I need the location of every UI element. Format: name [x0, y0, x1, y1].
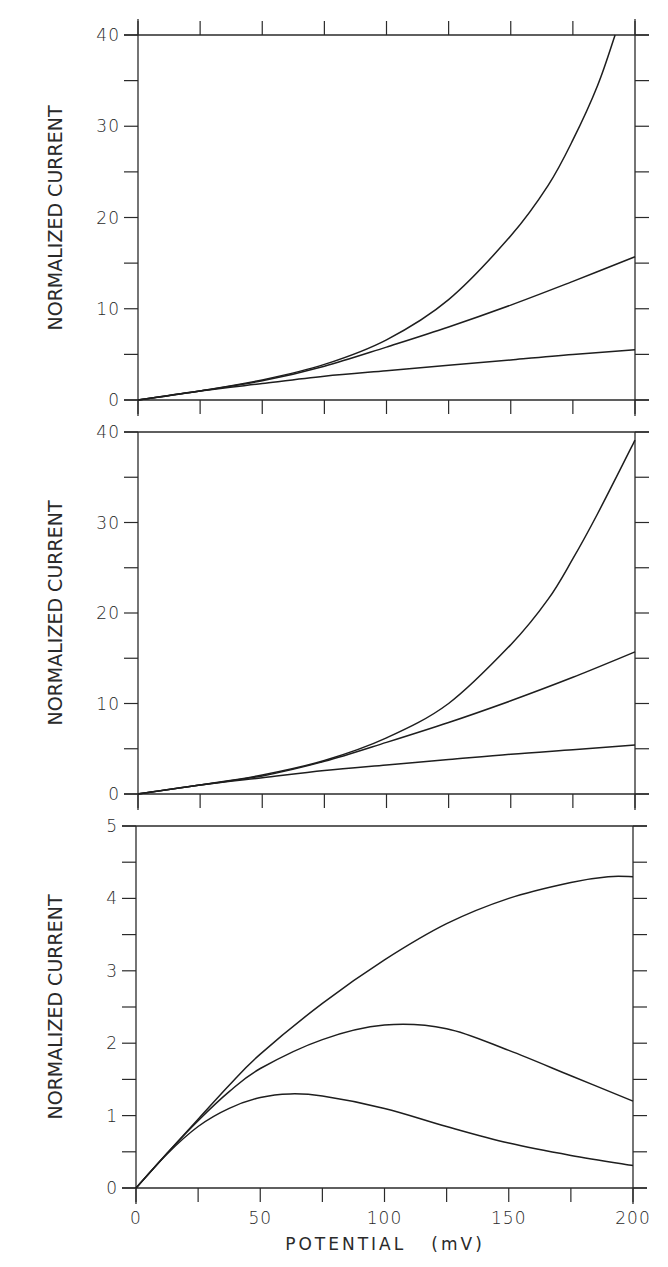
x-tick-label: 0 [130, 1208, 142, 1228]
panel-bottom-curves [136, 876, 633, 1188]
y-tick-label: 0 [106, 1178, 118, 1198]
y-tick-label: 40 [96, 422, 120, 442]
y-tick-label: 10 [96, 694, 120, 714]
y-tick-label: 30 [96, 513, 120, 533]
x-tick-label: 150 [491, 1208, 526, 1228]
curve-middle [138, 257, 635, 400]
panel-bottom: 012345050100150200 NORMALIZED CURRENT PO… [44, 816, 651, 1254]
panel-top: 010203040 NORMALIZED CURRENT [44, 19, 649, 416]
panel-top-ticks: 010203040 [96, 19, 649, 416]
x-tick-label: 200 [615, 1208, 650, 1228]
y-tick-label: 40 [96, 25, 120, 45]
panel-bottom-y-axis-label: NORMALIZED CURRENT [44, 894, 66, 1119]
curve-lower [138, 745, 635, 794]
y-tick-label: 0 [108, 784, 120, 804]
curve-middle [138, 652, 635, 794]
x-tick-label: 50 [248, 1208, 272, 1228]
curve-upper [138, 440, 635, 794]
y-tick-label: 20 [96, 208, 120, 228]
y-tick-label: 20 [96, 603, 120, 623]
panel-middle: 010203040 NORMALIZED CURRENT [44, 422, 649, 810]
y-tick-label: 5 [106, 816, 118, 836]
curve-upper [138, 35, 615, 400]
y-tick-label: 2 [106, 1033, 118, 1053]
x-axis-label: POTENTIAL (mV) [285, 1234, 485, 1254]
curve-lower [138, 350, 635, 400]
panel-top-curves [138, 35, 635, 400]
curve-upper [136, 876, 633, 1188]
y-tick-label: 10 [96, 299, 120, 319]
y-tick-label: 30 [96, 116, 120, 136]
figure: 010203040 NORMALIZED CURRENT 010203040 N… [0, 0, 668, 1267]
panel-middle-y-axis-label: NORMALIZED CURRENT [44, 500, 66, 725]
y-tick-label: 3 [106, 961, 118, 981]
panel-middle-ticks: 010203040 [96, 422, 649, 810]
panel-bottom-ticks: 012345050100150200 [106, 816, 651, 1228]
panel-middle-curves [138, 440, 635, 794]
x-tick-label: 100 [367, 1208, 402, 1228]
y-tick-label: 4 [106, 888, 118, 908]
panel-top-y-axis-label: NORMALIZED CURRENT [44, 105, 66, 330]
y-tick-label: 1 [106, 1106, 118, 1126]
y-tick-label: 0 [108, 390, 120, 410]
